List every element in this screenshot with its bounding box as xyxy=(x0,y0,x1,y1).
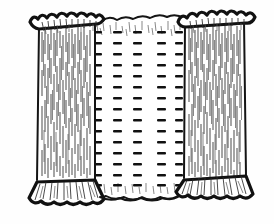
curtain-illustration: Ruffled Tier Curtains Left Curtain Panel… xyxy=(0,0,274,224)
center-sheer-panel xyxy=(88,15,185,199)
right-panel-seam xyxy=(184,22,185,178)
right-panel-top-ruffle xyxy=(178,11,255,27)
right-curtain-panel xyxy=(176,11,255,200)
curtain-canvas xyxy=(0,0,274,224)
left-curtain-panel xyxy=(29,13,104,205)
